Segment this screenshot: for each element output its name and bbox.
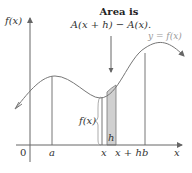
tick-x-plus-h: x + h: [115, 147, 142, 158]
tick-x: x: [101, 147, 107, 158]
function-curve: [16, 42, 184, 108]
origin-label: 0: [20, 147, 26, 158]
tick-b: b: [142, 147, 148, 158]
strip-height-label: f(x): [78, 115, 96, 126]
area-function-diagram: Area is A(x + h) − A(x). f(x) y = f(x) f…: [0, 0, 192, 173]
y-axis-label: f(x): [4, 15, 22, 26]
curve-label: y = f(x): [147, 31, 182, 41]
annotation-line2: A(x + h) − A(x).: [70, 19, 151, 30]
strip-width-label: h: [108, 132, 114, 143]
x-axis-label: x: [174, 147, 180, 158]
annotation-line1: Area is: [99, 6, 139, 17]
tick-a: a: [49, 147, 55, 158]
